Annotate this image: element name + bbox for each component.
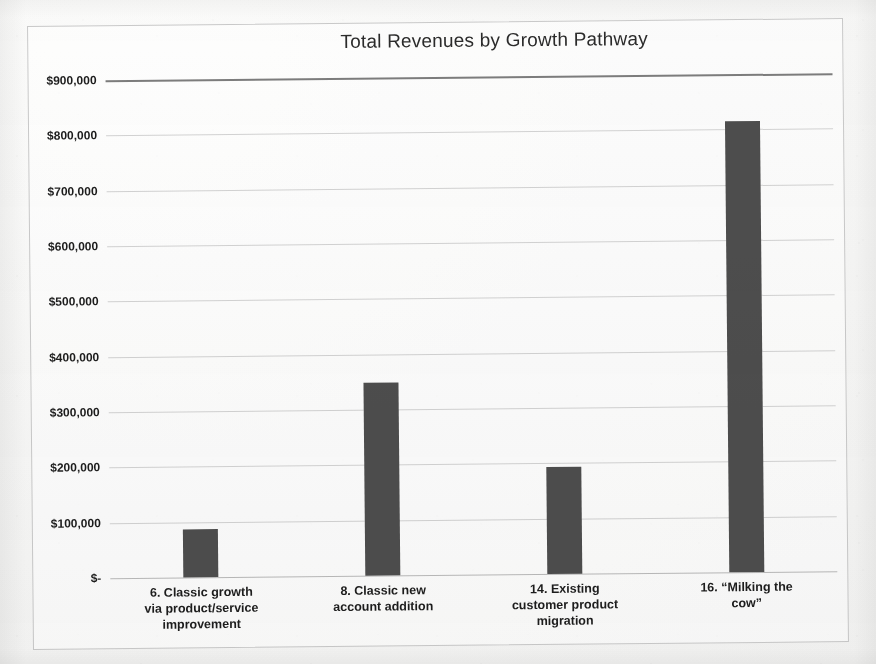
x-axis-category-label: 6. Classic growthvia product/serviceimpr… bbox=[110, 583, 292, 633]
x-axis-category-label-line: migration bbox=[474, 612, 656, 630]
bar bbox=[183, 529, 218, 577]
x-axis-category-label: 16. “Milking thecow” bbox=[656, 578, 838, 612]
y-axis-tick-label: $800,000 bbox=[47, 129, 97, 143]
y-axis-tick-label: $500,000 bbox=[49, 295, 99, 309]
y-axis-tick-label: $400,000 bbox=[49, 350, 99, 364]
bar bbox=[725, 121, 764, 572]
y-axis-tick-label: $200,000 bbox=[50, 461, 100, 475]
bar-chart: Total Revenues by Growth Pathway $-$100,… bbox=[27, 18, 849, 650]
bar bbox=[364, 382, 401, 575]
x-axis-category-label: 8. Classic newaccount addition bbox=[292, 582, 474, 616]
y-axis-tick-label: $300,000 bbox=[50, 405, 100, 419]
x-axis-category-label-line: improvement bbox=[111, 615, 293, 633]
bar bbox=[546, 467, 582, 574]
x-axis-category-label-line: 16. “Milking the bbox=[656, 578, 838, 596]
x-axis-category-label-line: 6. Classic growth bbox=[110, 583, 292, 601]
x-axis-category-label: 14. Existingcustomer productmigration bbox=[474, 580, 656, 630]
x-axis-category-label-line: customer product bbox=[474, 596, 656, 614]
plot-area: $-$100,000$200,000$300,000$400,000$500,0… bbox=[106, 73, 838, 578]
x-axis-category-label-line: via product/service bbox=[111, 599, 293, 617]
y-axis-tick-label: $600,000 bbox=[48, 239, 98, 253]
y-axis-tick-label: $- bbox=[91, 571, 102, 585]
y-axis-tick-label: $700,000 bbox=[47, 184, 97, 198]
x-axis-category-label-line: 8. Classic new bbox=[292, 582, 474, 600]
y-axis-tick-label: $900,000 bbox=[46, 73, 96, 87]
x-axis-category-label-line: cow” bbox=[656, 594, 838, 612]
x-axis-category-label-line: account addition bbox=[292, 598, 474, 616]
x-axis-labels: 6. Classic growthvia product/serviceimpr… bbox=[110, 578, 838, 645]
chart-title-text: Total Revenues by Growth Pathway bbox=[222, 28, 648, 54]
x-axis-category-label-line: 14. Existing bbox=[474, 580, 656, 598]
y-axis-tick-label: $100,000 bbox=[51, 516, 101, 530]
